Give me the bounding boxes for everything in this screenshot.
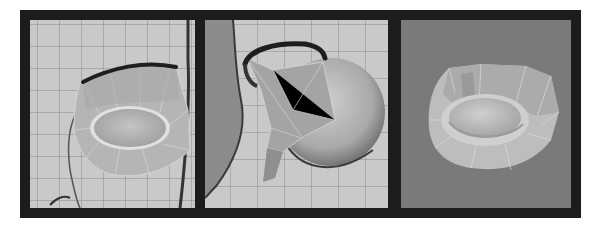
perspective-view-render [401, 20, 571, 208]
front-view-render [30, 20, 195, 208]
side-view-render [205, 20, 388, 208]
viewport-front [30, 20, 195, 208]
viewport-side [205, 20, 388, 208]
viewport-perspective [401, 20, 571, 208]
